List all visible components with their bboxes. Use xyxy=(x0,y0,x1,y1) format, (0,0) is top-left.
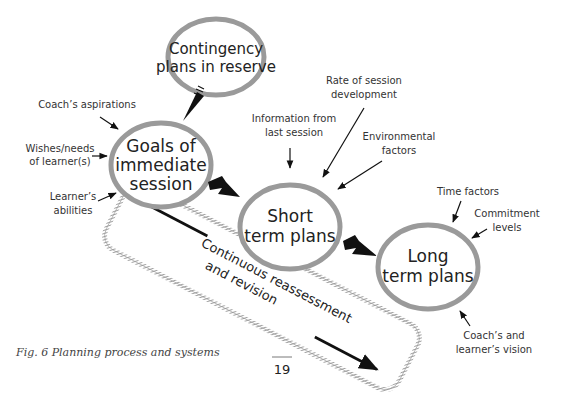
short-to-long-arrow xyxy=(343,235,377,256)
commitment-arrow xyxy=(472,229,487,238)
vision-arrow xyxy=(460,311,470,326)
vision-label-2: learner’s vision xyxy=(456,344,532,355)
vision-label-1: Coach’s and xyxy=(463,330,524,341)
wishes-label-1: Wishes/needs xyxy=(26,143,95,154)
time-factors-label: Time factors xyxy=(436,186,499,197)
rate-label-2: development xyxy=(331,89,397,100)
abilities-label-1: Learner’s xyxy=(50,191,97,202)
info-label-1: Information from xyxy=(252,113,336,124)
wishes-label-2: of learner(s) xyxy=(29,156,91,167)
goals-line1: Goals of xyxy=(126,136,196,156)
page-number: 19 xyxy=(274,362,291,377)
abilities-arrow xyxy=(98,193,116,201)
figure-caption: Fig. 6 Planning process and systems xyxy=(15,346,220,359)
goals-line3: session xyxy=(130,174,193,194)
goals-to-short-arrow xyxy=(208,176,240,197)
commitment-label-1: Commitment xyxy=(474,208,540,219)
goals-line2: immediate xyxy=(115,155,206,175)
planning-diagram: Continuous reassessment and revision Con… xyxy=(0,0,562,395)
rate-label-1: Rate of session xyxy=(326,75,402,86)
time-factors-arrow xyxy=(453,201,461,222)
long-line2: term plans xyxy=(382,266,473,286)
contingency-line1: Contingency xyxy=(169,40,263,58)
short-line1: Short xyxy=(267,206,313,226)
short-line2: term plans xyxy=(244,226,335,246)
abilities-label-2: abilities xyxy=(54,205,93,216)
coach-aspirations-label: Coach’s aspirations xyxy=(38,99,136,110)
coach-aspirations-arrow xyxy=(100,117,118,129)
env-arrow xyxy=(338,161,382,189)
band-arrow-right xyxy=(315,337,377,369)
commitment-label-2: levels xyxy=(493,222,522,233)
env-label-1: Environmental xyxy=(363,131,436,142)
contingency-line2: plans in reserve xyxy=(156,58,276,76)
long-line1: Long xyxy=(407,246,448,266)
info-label-2: last session xyxy=(265,127,323,138)
env-label-2: factors xyxy=(382,145,417,156)
